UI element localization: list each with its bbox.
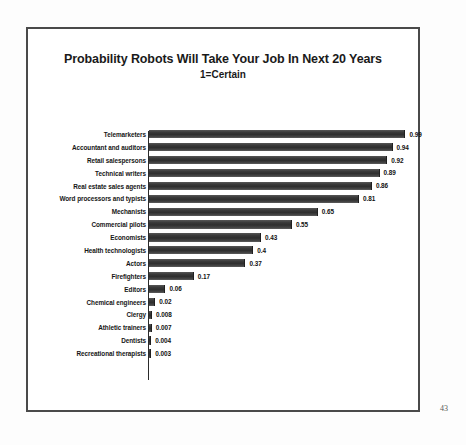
bar	[149, 349, 151, 357]
bar-row: Athletic trainers0.007	[28, 321, 418, 334]
bar-value-label: 0.43	[265, 234, 277, 241]
bar-row: Technical writers0.89	[28, 167, 418, 180]
bar	[149, 233, 261, 241]
bar	[149, 311, 152, 319]
bar	[149, 259, 245, 267]
bar-category-label: Retail salespersons	[0, 157, 146, 164]
bar-value-label: 0.99	[409, 131, 421, 138]
bar-rows: Telemarketers0.99Accountant and auditors…	[28, 128, 418, 360]
bar-wrapper: 0.55	[149, 220, 308, 228]
bar-row: Mechanists0.65	[28, 205, 418, 218]
bar-wrapper: 0.003	[149, 349, 171, 357]
bar	[149, 208, 318, 216]
bar-category-label: Accountant and auditors	[0, 144, 146, 151]
bar-value-label: 0.008	[156, 311, 172, 318]
bar-row: Clergy0.008	[28, 308, 418, 321]
bar-wrapper: 0.94	[149, 143, 409, 151]
bar-category-label: Firefighters	[0, 273, 146, 280]
bar-wrapper: 0.008	[149, 311, 172, 319]
bar-category-label: Clergy	[0, 311, 146, 318]
bar-wrapper: 0.4	[149, 246, 266, 254]
bar-wrapper: 0.37	[149, 259, 262, 267]
bar	[149, 272, 194, 280]
bar-wrapper: 0.43	[149, 233, 277, 241]
bar	[149, 169, 380, 177]
bar-value-label: 0.003	[155, 350, 171, 357]
bar-row: Retail salespersons0.92	[28, 154, 418, 167]
bar-value-label: 0.37	[249, 260, 261, 267]
bar-row: Firefighters0.17	[28, 270, 418, 283]
bar-wrapper: 0.89	[149, 169, 396, 177]
bar-category-label: Technical writers	[0, 170, 146, 177]
bar-value-label: 0.81	[363, 195, 375, 202]
bar-value-label: 0.007	[156, 324, 172, 331]
bar-row: Chemical engineers0.02	[28, 296, 418, 309]
bar-category-label: Word processors and typists	[0, 195, 146, 202]
bar-value-label: 0.92	[391, 157, 403, 164]
bar	[149, 130, 405, 138]
bar-value-label: 0.94	[397, 144, 409, 151]
bar	[149, 195, 359, 203]
page-number: 43	[440, 404, 448, 413]
bar-category-label: Mechanists	[0, 208, 146, 215]
bar-value-label: 0.4	[257, 247, 266, 254]
bar-wrapper: 0.007	[149, 324, 172, 332]
bar-row: Commercial pilots0.55	[28, 218, 418, 231]
slide-page: Probability Robots Will Take Your Job In…	[0, 0, 466, 445]
bar-value-label: 0.004	[155, 337, 171, 344]
bar	[149, 182, 372, 190]
bar-row: Real estate sales agents0.86	[28, 180, 418, 193]
bar-wrapper: 0.86	[149, 182, 388, 190]
page-title: Probability Robots Will Take Your Job In…	[28, 52, 418, 67]
bar-row: Accountant and auditors0.94	[28, 141, 418, 154]
bar-value-label: 0.17	[198, 273, 210, 280]
bar	[149, 324, 152, 332]
bar	[149, 143, 393, 151]
bar-row: Dentists0.004	[28, 334, 418, 347]
bar-row: Telemarketers0.99	[28, 128, 418, 141]
bar-value-label: 0.65	[322, 208, 334, 215]
bar-value-label: 0.02	[159, 298, 171, 305]
bar	[149, 220, 292, 228]
slide-frame: Probability Robots Will Take Your Job In…	[26, 27, 420, 412]
bar-category-label: Chemical engineers	[0, 299, 146, 306]
bar-category-label: Athletic trainers	[0, 324, 146, 331]
bar-category-label: Economists	[0, 234, 146, 241]
bar-wrapper: 0.02	[149, 298, 171, 306]
bar-wrapper: 0.99	[149, 130, 422, 138]
bar-value-label: 0.89	[384, 169, 396, 176]
bar-wrapper: 0.004	[149, 336, 171, 344]
bar-row: Economists0.43	[28, 231, 418, 244]
bar-row: Word processors and typists0.81	[28, 192, 418, 205]
bar-value-label: 0.06	[169, 285, 181, 292]
bar-category-label: Editors	[0, 286, 146, 293]
bar	[149, 336, 151, 344]
bar-category-label: Recreational therapists	[0, 350, 146, 357]
bar-category-label: Health technologists	[0, 247, 146, 254]
bar-chart-plot-area: Telemarketers0.99Accountant and auditors…	[28, 128, 418, 390]
bar	[149, 298, 155, 306]
chart-title-block: Probability Robots Will Take Your Job In…	[28, 52, 418, 82]
chart-subtitle: 1=Certain	[28, 68, 418, 82]
bar-category-label: Dentists	[0, 337, 146, 344]
bar-category-label: Actors	[0, 260, 146, 267]
bar-category-label: Telemarketers	[0, 131, 146, 138]
bar-row: Recreational therapists0.003	[28, 347, 418, 360]
bar-wrapper: 0.65	[149, 208, 334, 216]
bar-category-label: Commercial pilots	[0, 221, 146, 228]
bar-wrapper: 0.17	[149, 272, 210, 280]
bar-category-label: Real estate sales agents	[0, 183, 146, 190]
bar	[149, 285, 165, 293]
bar-value-label: 0.55	[296, 221, 308, 228]
bar-wrapper: 0.92	[149, 156, 404, 164]
bar-wrapper: 0.06	[149, 285, 182, 293]
bar-value-label: 0.86	[376, 182, 388, 189]
bar-row: Editors0.06	[28, 283, 418, 296]
bar	[149, 246, 253, 254]
bar-wrapper: 0.81	[149, 195, 375, 203]
bar-row: Actors0.37	[28, 257, 418, 270]
bar	[149, 156, 387, 164]
bar-row: Health technologists0.4	[28, 244, 418, 257]
